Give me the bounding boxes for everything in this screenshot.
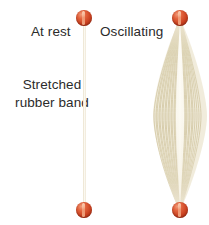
bead-rest-top (76, 10, 92, 26)
rubber-band-oscillation-figure: At rest Oscillating Stretched rubber ban… (0, 0, 209, 225)
oscillating-rubber-band (149, 16, 207, 213)
bead-oscillating-top (172, 10, 188, 26)
oscillating-envelope-svg (149, 16, 207, 213)
label-at-rest: At rest (31, 24, 71, 39)
label-stretched-rubber-band: Stretched rubber band (14, 76, 90, 112)
rest-rubber-band (83, 18, 86, 211)
bead-rest-bottom (76, 202, 92, 218)
bead-oscillating-bottom (172, 202, 188, 218)
